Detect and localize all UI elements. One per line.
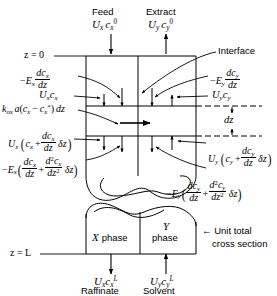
x-conv-bot-plus: + [35,138,41,149]
x-disp-bot-E-sub: x [14,168,17,175]
mt-close-paren: ) [51,103,54,114]
unit-cross-section-line-2: cross section [212,239,267,249]
x-convection-top-term: Uxcx [39,90,58,102]
y-disp-bot-plus: + [202,188,208,199]
y-conv-top-c-sub: y [227,94,230,102]
mass-transfer-leader [78,110,118,124]
y-disp-bot-E-sub: y [178,192,181,199]
y-disp-bot-den2: dz [211,192,220,203]
mt-k-sub: ox [6,108,12,115]
extract-c-superscript: 0 [170,18,174,26]
x-conv-bot-den: dz [41,143,55,153]
raff-c-sup: L [114,275,118,283]
y-disp-bot-close-paren: ) [238,186,242,202]
y-disp-top-num-sub: y [236,72,239,79]
y-axial-dispersion-top-term: −Eydcydz [210,68,240,90]
y-disp-bot-num2-sub: y [222,184,225,191]
solv-c-sup: L [170,275,174,283]
feed-flux-term: Uxcx0 [92,19,117,32]
x-disp-bot-delta: δz [65,164,74,175]
y-disp-bot-den2-sup: 2 [220,191,223,198]
y-disp-top-num: dc [226,67,235,78]
y-convection-bottom-leader [178,141,206,143]
z-L-label: z = L [10,248,31,258]
column-break-lower-curve [86,203,196,226]
feed-c-superscript: 0 [114,18,118,26]
extract-flux-term: Uycy0 [148,19,173,32]
feed-U-symbol: U [92,18,100,30]
x-disp-bot-plus: + [38,164,44,175]
extract-U-subscript: y [156,23,159,32]
mt-dz: dz [56,103,65,114]
y-phase-word: phase [152,233,178,243]
x-convection-bottom-term: Ux(cx+dcxdzδz) [8,131,72,153]
feed-label: Feed [92,7,114,17]
interface-label: Interface [218,46,255,56]
x-convection-top-leader [74,96,100,98]
x-conv-bot-open-paren: ( [21,136,25,152]
y-diffusion-bottom-leader [156,147,206,168]
extract-U-symbol: U [148,18,156,30]
x-axial-dispersion-bottom-term: −Ex(dcxdz+d2cxdz2δz) [2,156,79,179]
y-disp-bot-delta: δz [229,188,238,199]
y-phase-symbol: Y [163,221,169,232]
y-convection-top-term: Uycy [212,90,231,102]
y-conv-bot-close-paren: ) [267,151,271,167]
x-disp-bot-close-paren: ) [74,162,78,178]
x-conv-top-c-sub: x [54,94,57,102]
x-disp-top-num: dc [36,67,45,78]
x-conv-top-U: U [39,89,47,100]
x-conv-bot-close-paren: ) [67,136,71,152]
x-axial-dispersion-top-term: −Exdcxdz [20,68,50,90]
x-phase-symbol: X [92,231,99,243]
interface-leader [142,52,216,93]
raffinate-label: Raffinate [81,286,119,296]
x-disp-bot-den2: dz [47,168,56,179]
y-conv-bot-den: dz [241,158,255,168]
x-conv-bot-U-sub: x [15,143,18,150]
x-phase-word: phase [102,232,128,243]
y-conv-bot-num: dc [242,145,251,156]
y-convection-bottom-term: Uy(cy+dcydzδz) [208,146,272,168]
y-conv-bot-delta: δz [258,153,267,164]
x-conv-bot-delta: δz [58,138,67,149]
y-conv-bot-num-sub: y [252,150,255,157]
x-disp-bot-den1: dz [22,169,36,179]
x-phase-label: Xphase [92,232,128,244]
mt-minus: − [32,103,38,114]
y-disp-bot-num1-sub: y [197,185,200,192]
x-diffusion-top-leader [78,76,120,98]
y-conv-bot-open-paren: ( [221,151,225,167]
y-conv-bot-c-sub: y [230,158,233,165]
x-disp-bot-open-paren: ( [18,162,22,178]
mass-transfer-term: koxa(cx−cx*)dz [2,104,65,116]
y-diffusion-top-leader [155,76,208,97]
y-disp-bot-num1: dc [187,180,196,191]
z-zero-label: z = 0 [24,50,44,60]
unit-cross-section-line-1: ← Unit total [202,226,252,236]
element-height-label: dz [224,115,233,126]
feed-U-subscript: x [100,23,103,32]
x-disp-bot-num2-sub: x [58,160,61,167]
x-conv-bot-num: dc [42,130,51,141]
x-disp-bot-num1-sub: x [33,161,36,168]
mt-c1-sub: x [27,108,30,115]
y-disp-top-den: dz [225,80,239,90]
y-axial-dispersion-bottom-term: −Ey(dcydz+d2cydz2δz) [166,180,243,203]
x-diffusion-bottom-leader [86,146,120,160]
x-conv-bot-c-sub: x [30,143,33,150]
y-convection-top-leader [177,96,208,97]
x-disp-bot-num1: dc [23,156,32,167]
y-disp-bot-open-paren: ( [182,186,186,202]
y-disp-bot-den1: dz [186,193,200,203]
y-conv-bot-plus: + [235,153,241,164]
y-conv-top-U: U [212,89,220,100]
solvent-label: Solvent [143,286,175,296]
extract-label: Extract [146,7,176,17]
x-disp-bot-den2-sup: 2 [56,167,59,174]
y-conv-bot-U-sub: y [215,158,218,165]
x-disp-top-num-sub: x [46,72,49,79]
extraction-column-diagram: Feed Extract Uxcx0 Uycy0 z = 0 Interface… [0,0,277,296]
x-convection-bottom-leader [74,139,100,140]
x-conv-bot-num-sub: x [52,135,55,142]
